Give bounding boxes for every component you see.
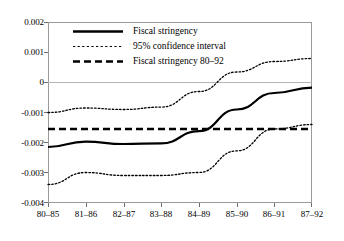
legend-swatch-dotted-icon	[72, 41, 124, 52]
legend-swatch-solid-icon	[72, 26, 124, 37]
series-line	[48, 88, 312, 147]
legend-item-fiscal-stringency-80-92: Fiscal stringency 80–92	[72, 54, 282, 69]
x-tick-label: 87–92	[289, 209, 335, 219]
x-axis: 80–85 81–86 82–87 83–88 84–89 85–90 86–9…	[48, 209, 312, 225]
legend-label: Fiscal stringency 80–92	[124, 56, 224, 67]
legend: Fiscal stringency 95% confidence interva…	[72, 24, 282, 69]
legend-label: Fiscal stringency	[124, 26, 198, 37]
legend-item-fiscal-stringency: Fiscal stringency	[72, 24, 282, 39]
legend-item-confidence-interval: 95% confidence interval	[72, 39, 282, 54]
fiscal-stringency-line-chart: 0.002 0.001 0 -0.001 -0.002 -0.003 -0.00…	[0, 0, 344, 241]
legend-label: 95% confidence interval	[124, 41, 226, 52]
x-tick-marks	[49, 203, 312, 207]
series-line	[48, 125, 312, 185]
legend-swatch-dashed-icon	[72, 56, 124, 67]
series-layer	[48, 59, 312, 185]
